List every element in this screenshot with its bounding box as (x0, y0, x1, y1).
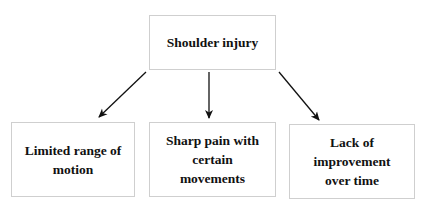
node-limited-range-of-motion: Limited range of motion (11, 122, 135, 197)
node-shoulder-injury: Shoulder injury (149, 15, 276, 70)
node-label: Lack of improvement over time (304, 133, 400, 190)
arrow-root-to-a (99, 72, 146, 117)
arrow-root-to-c (279, 72, 319, 120)
node-sharp-pain: Sharp pain with certain movements (149, 122, 276, 197)
node-label: Limited range of motion (18, 141, 128, 179)
node-label: Shoulder injury (167, 33, 259, 52)
node-label: Sharp pain with certain movements (163, 131, 263, 188)
node-lack-of-improvement: Lack of improvement over time (289, 124, 415, 199)
